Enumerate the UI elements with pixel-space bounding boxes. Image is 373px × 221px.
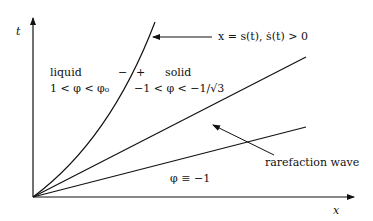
phase-diagram: t x x = s(t), ṡ(t) > 0 liquid 1 < φ < φ₀… <box>0 0 373 221</box>
solid-condition: −1 < φ < −1/√3 <box>134 83 224 95</box>
diagram-lines <box>0 0 373 221</box>
plus-sign: + <box>136 67 145 79</box>
x-axis-label: x <box>333 205 339 217</box>
liquid-title: liquid <box>50 67 82 79</box>
minus-sign: − <box>118 67 127 79</box>
rarefaction-label: rarefaction wave <box>265 157 359 169</box>
t-axis-label: t <box>16 26 20 38</box>
bottom-region-condition: φ ≡ −1 <box>170 173 210 185</box>
liquid-condition: 1 < φ < φ₀ <box>50 83 109 95</box>
rarefaction-arrow <box>213 125 274 155</box>
solid-title: solid <box>165 67 191 79</box>
free-boundary-label: x = s(t), ṡ(t) > 0 <box>218 31 308 43</box>
